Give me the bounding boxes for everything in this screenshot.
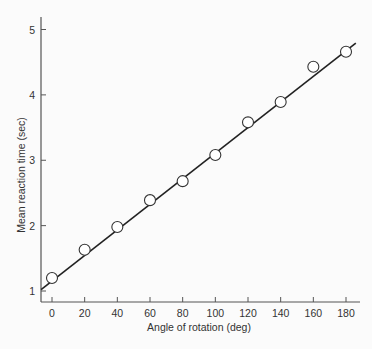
data-point-marker <box>243 117 254 128</box>
x-tick-label: 100 <box>207 307 225 319</box>
x-axis-label: Angle of rotation (deg) <box>147 321 251 333</box>
y-axis-label: Mean reaction time (sec) <box>15 117 27 233</box>
x-axis-ticks: 020406080100120140160180 <box>49 297 355 319</box>
y-tick-label: 1 <box>29 285 35 297</box>
y-tick-label: 5 <box>29 24 35 36</box>
data-point-marker <box>79 244 90 255</box>
x-tick-label: 20 <box>79 307 91 319</box>
x-tick-label: 80 <box>177 307 189 319</box>
y-tick-label: 3 <box>29 154 35 166</box>
data-point-marker <box>210 150 221 161</box>
data-point-marker <box>112 221 123 232</box>
x-tick-label: 160 <box>305 307 323 319</box>
y-axis-ticks: 12345 <box>29 24 46 298</box>
y-tick-label: 2 <box>29 220 35 232</box>
x-tick-label: 40 <box>111 307 123 319</box>
x-tick-label: 60 <box>144 307 156 319</box>
x-tick-label: 180 <box>337 307 355 319</box>
y-tick-label: 4 <box>29 89 35 101</box>
data-point-marker <box>341 46 352 57</box>
data-point-marker <box>177 176 188 187</box>
data-point-marker <box>47 272 58 283</box>
data-point-marker <box>145 195 156 206</box>
x-tick-label: 120 <box>239 307 257 319</box>
axes <box>41 17 360 302</box>
x-tick-label: 140 <box>272 307 290 319</box>
data-point-marker <box>275 97 286 108</box>
data-point-marker <box>308 61 319 72</box>
reaction-time-chart: 12345 020406080100120140160180 Angle of … <box>0 0 372 349</box>
x-tick-label: 0 <box>49 307 55 319</box>
